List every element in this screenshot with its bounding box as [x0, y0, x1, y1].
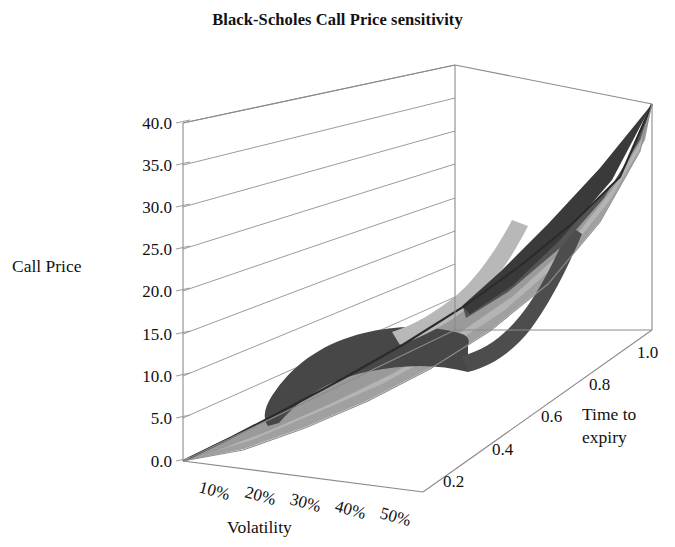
z-axis-title-line2: expiry: [582, 427, 627, 447]
y-tick-label: 35.0: [142, 156, 172, 175]
z-axis-title-line1: Time to: [582, 404, 637, 424]
z-tick-label: 0.6: [541, 407, 562, 426]
y-tick-label: 30.0: [142, 198, 172, 217]
y-tick-label: 40.0: [142, 114, 172, 133]
x-axis-title: Volatility: [227, 517, 292, 537]
x-tick-label: 20%: [243, 483, 278, 509]
z-tick-label: 0.8: [589, 375, 610, 394]
x-tick-label: 30%: [288, 490, 323, 516]
y-axis-title: Call Price: [12, 256, 82, 276]
y-tick-label: 10.0: [142, 367, 172, 386]
z-tick-label: 1.0: [637, 343, 658, 362]
y-tick-label: 5.0: [151, 409, 172, 428]
y-axis-tick-labels: 40.0 35.0 30.0 25.0 20.0 15.0 10.0 5.0 0…: [142, 114, 172, 471]
z-tick-label: 0.4: [492, 440, 514, 459]
chart-container: Black-Scholes Call Price sensitivity: [0, 0, 675, 547]
x-tick-label: 50%: [378, 504, 413, 530]
y-tick-label: 0.0: [151, 452, 172, 471]
x-tick-label: 40%: [333, 497, 368, 523]
y-tick-label: 15.0: [142, 325, 172, 344]
surface-plot-3d: 40.0 35.0 30.0 25.0 20.0 15.0 10.0 5.0 0…: [0, 0, 675, 547]
x-tick-label: 10%: [197, 478, 232, 504]
z-tick-label: 0.2: [443, 472, 464, 491]
y-tick-label: 20.0: [142, 282, 172, 301]
y-tick-label: 25.0: [142, 240, 172, 259]
